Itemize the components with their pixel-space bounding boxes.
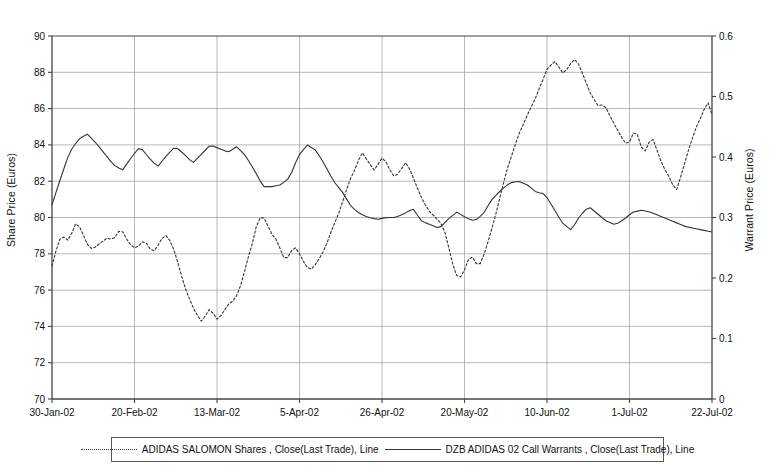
y-tick-label-right: 0 [719, 394, 725, 405]
x-tick-label: 22-Jul-02 [691, 407, 733, 418]
y-tick-label-left: 74 [34, 321, 46, 332]
x-tick-label: 13-Mar-02 [194, 407, 241, 418]
grid-lines [52, 36, 712, 399]
y-tick-label-left: 80 [34, 212, 46, 223]
y-tick-label-left: 78 [34, 248, 46, 259]
y-tick-label-left: 76 [34, 285, 46, 296]
legend-label-warrants: DZB ADIDAS 02 Call Warrants , Close(Last… [446, 444, 695, 455]
x-tick-label: 30-Jan-02 [29, 407, 74, 418]
legend-solid-line-icon [385, 449, 441, 450]
axis-ticks: 707274767880828486889000.10.20.30.40.50.… [29, 31, 733, 419]
y-tick-label-left: 88 [34, 67, 46, 78]
x-tick-label: 20-Feb-02 [111, 407, 158, 418]
y-tick-label-left: 82 [34, 176, 46, 187]
y-tick-label-right: 0.1 [719, 333, 733, 344]
x-tick-label: 26-Apr-02 [360, 407, 405, 418]
legend-item-warrants: DZB ADIDAS 02 Call Warrants , Close(Last… [385, 444, 695, 455]
y-tick-label-right: 0.3 [719, 212, 733, 223]
legend-dotted-line-icon [81, 449, 137, 450]
y-tick-label-left: 84 [34, 139, 46, 150]
x-tick-label: 5-Apr-02 [280, 407, 319, 418]
y-tick-label-right: 0.5 [719, 91, 733, 102]
y-tick-label-right: 0.4 [719, 152, 733, 163]
y-tick-label-left: 90 [34, 31, 46, 42]
chart-page: Share Price (Euros) Warrant Price (Euros… [0, 0, 777, 475]
legend-label-shares: ADIDAS SALOMON Shares , Close(Last Trade… [142, 444, 379, 455]
chart-canvas: 707274767880828486889000.10.20.30.40.50.… [0, 0, 777, 475]
legend-item-shares: ADIDAS SALOMON Shares , Close(Last Trade… [81, 444, 379, 455]
y-tick-label-left: 72 [34, 357, 46, 368]
chart-legend: ADIDAS SALOMON Shares , Close(Last Trade… [111, 437, 664, 462]
y-tick-label-right: 0.2 [719, 273, 733, 284]
x-tick-label: 20-May-02 [441, 407, 489, 418]
x-tick-label: 10-Jun-02 [524, 407, 569, 418]
y-tick-label-left: 70 [34, 394, 46, 405]
y-tick-label-left: 86 [34, 103, 46, 114]
x-tick-label: 1-Jul-02 [611, 407, 648, 418]
y-tick-label-right: 0.6 [719, 31, 733, 42]
